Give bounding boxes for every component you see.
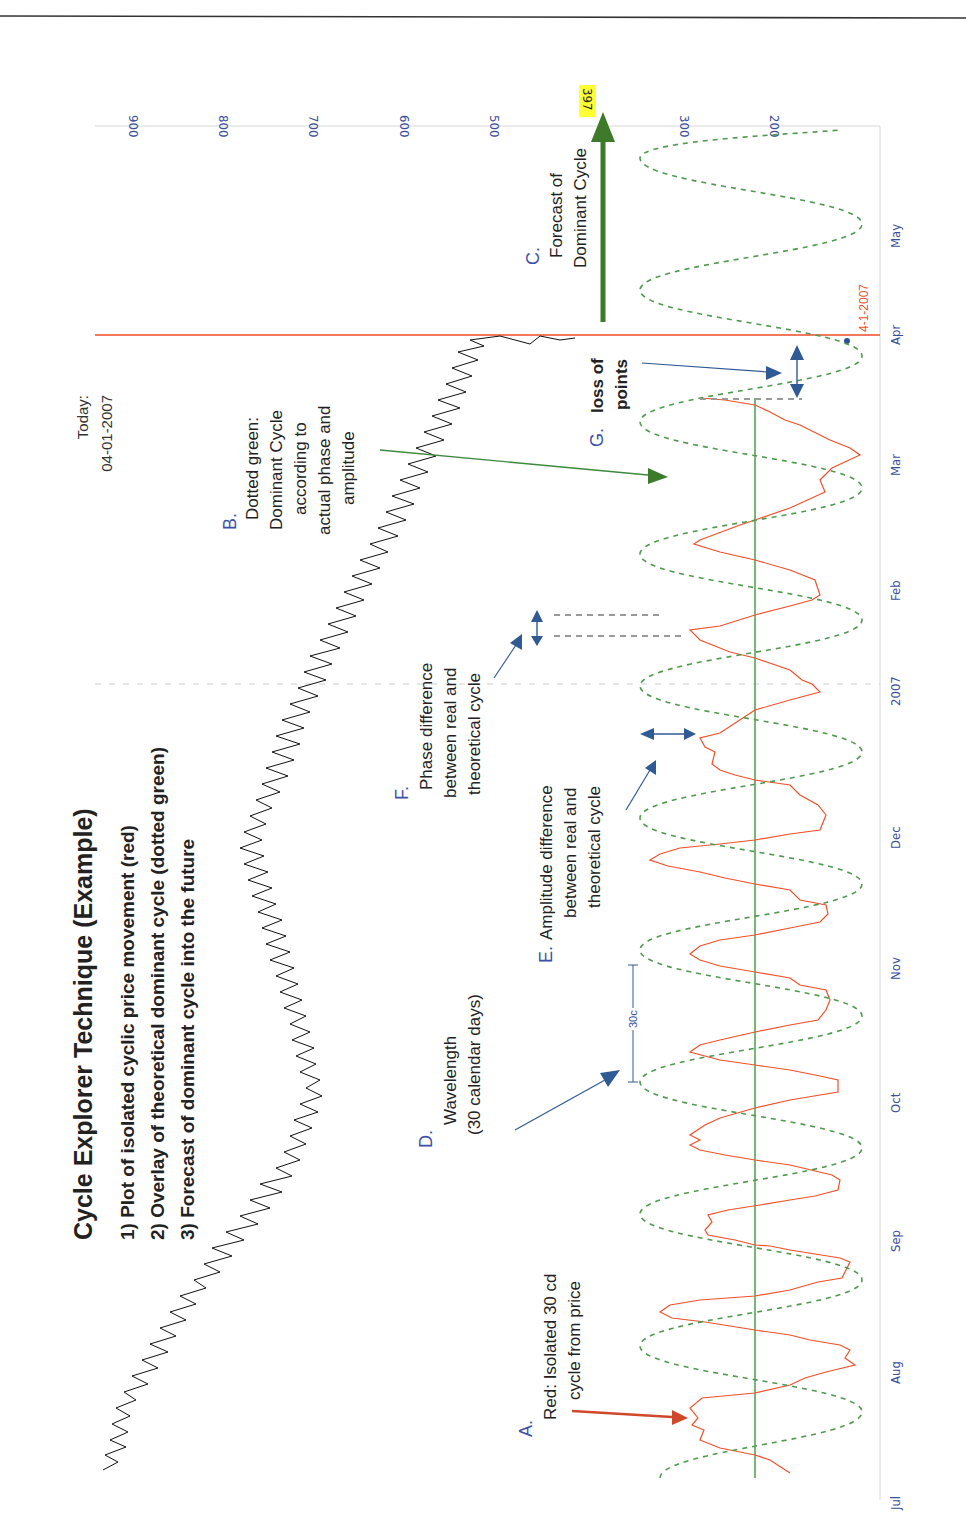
x-tick: Apr	[888, 325, 903, 345]
x-tick: May	[888, 224, 903, 248]
annotation-b-line-2: Dominant Cycle	[267, 410, 286, 530]
amplitude-arrowhead-icon	[684, 728, 696, 740]
amplitude-arrowhead-icon	[640, 728, 654, 740]
annotation-a-letter: A.	[516, 1420, 536, 1437]
y-tick: 900	[126, 115, 141, 137]
annotation-e-arrow	[626, 770, 650, 810]
x-tick: Mar	[888, 454, 903, 476]
y-tick: 700	[306, 115, 321, 137]
page-header-rule	[0, 16, 966, 18]
annotation-d-line-2: (30 calendar days)	[465, 994, 484, 1135]
loss-arrowhead-icon	[790, 384, 804, 398]
price-series	[103, 336, 575, 1470]
annotation-f-line-2: between real and	[441, 668, 460, 798]
annotation-b-arrow	[380, 450, 648, 475]
annotation-f-arrowhead-icon	[510, 634, 522, 650]
phase-arrowhead-icon	[531, 610, 543, 622]
y-tick: 500	[487, 115, 502, 137]
today-marker-label: 4-1-2007	[857, 284, 871, 332]
chart-title: Cycle Explorer Technique (Example)	[69, 808, 97, 1240]
x-tick: Nov	[888, 957, 903, 980]
wavelength-label: 30c	[627, 1010, 639, 1028]
x-tick: Feb	[888, 580, 903, 601]
step-3: 3) Forecast of dominant cycle into the f…	[177, 839, 198, 1240]
title-block: Cycle Explorer Technique (Example) 1) Pl…	[69, 747, 198, 1240]
step-1: 1) Plot of isolated cyclic price movemen…	[117, 825, 138, 1240]
annotation-b-line-5: amplitude	[339, 431, 358, 505]
cycle-explorer-chart: 900 800 700 600 500 397 300 200 Jul Aug …	[0, 0, 966, 1534]
x-tick: Oct	[888, 1092, 903, 1113]
annotation-f-line-1: Phase difference	[417, 663, 436, 790]
annotation-e-line-1: Amplitude difference	[537, 785, 556, 940]
annotation-g-letter: G.	[587, 428, 607, 447]
y-tick: 600	[397, 115, 412, 137]
annotation-e-letter: E.	[536, 946, 556, 963]
today-label: Today:	[74, 395, 91, 439]
annotation-g-line-2: points	[612, 359, 631, 410]
annotation-c-line-2: Dominant Cycle	[571, 148, 590, 268]
step-2: 2) Overlay of theoretical dominant cycle…	[147, 747, 168, 1240]
annotation-e-line-2: between real and	[561, 788, 580, 918]
annotation-f-line-3: theoretical cycle	[465, 673, 484, 795]
annotation-a-arrow	[572, 1411, 672, 1417]
annotation-e-arrowhead-icon	[645, 760, 656, 775]
annotation-b-line-1: Dotted green:	[243, 417, 262, 520]
annotation-g-arrowhead-icon	[766, 366, 782, 380]
annotation-b-arrowhead-icon	[648, 468, 668, 484]
x-tick: Sep	[888, 1230, 903, 1252]
annotation-g-arrow	[642, 363, 768, 372]
loss-arrowhead-icon	[790, 345, 804, 360]
annotation-c-line-1: Forecast of	[547, 173, 566, 258]
annotation-b-line-4: actual phase and	[315, 406, 334, 536]
annotation-d-arrowhead-icon	[600, 1070, 620, 1087]
annotation-d-arrow	[515, 1080, 605, 1130]
x-tick: 2007	[888, 676, 903, 706]
annotation-b-letter: B.	[220, 513, 240, 530]
dominant-cycle-series	[640, 130, 862, 1478]
phase-arrowhead-icon	[531, 636, 543, 646]
x-tick: Jul	[888, 1496, 903, 1511]
annotation-a-line-2: cycle from price	[565, 1281, 584, 1400]
annotation-d-line-1: Wavelength	[441, 1036, 460, 1125]
x-axis: Jul Aug Sep Oct Nov Dec 2007 Feb Mar Apr…	[888, 224, 903, 1511]
y-tick: 300	[677, 115, 692, 137]
y-tick: 800	[216, 115, 231, 137]
annotation-f-arrow	[494, 645, 516, 678]
annotation-c-letter: C.	[523, 247, 543, 265]
x-tick: Aug	[888, 1361, 903, 1384]
annotation-f-letter: F.	[392, 786, 412, 800]
annotation-e-line-3: theoretical cycle	[585, 786, 604, 908]
annotation-d-letter: D.	[416, 1130, 436, 1148]
annotation-a-line-1: Red: Isolated 30 cd	[541, 1274, 560, 1420]
x-tick: Dec	[888, 826, 903, 849]
y-axis: 900 800 700 600 500 397 300 200	[126, 85, 782, 137]
annotation-g-line-1: loss of	[588, 358, 607, 413]
annotation-a-arrowhead-icon	[672, 1410, 688, 1425]
current-value-label: 397	[580, 88, 595, 110]
annotation-b-line-3: according to	[291, 422, 310, 515]
today-date: 04-01-2007	[98, 395, 115, 472]
